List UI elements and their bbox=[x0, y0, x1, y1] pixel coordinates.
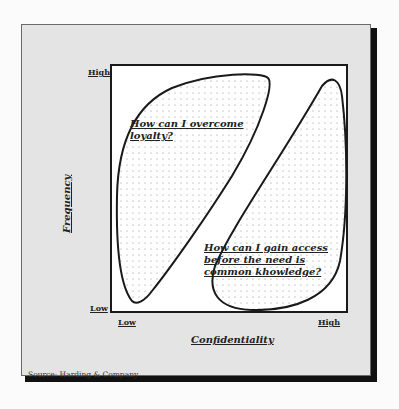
y-low-label: Low bbox=[90, 303, 108, 313]
y-high-label: High bbox=[88, 67, 110, 77]
x-axis-title: Confidentiality bbox=[191, 334, 274, 345]
x-low-label: Low bbox=[118, 317, 136, 327]
plot-area: How can I overcome loyalty? How can I ga… bbox=[110, 64, 348, 313]
y-axis-title: Frequency bbox=[61, 175, 72, 233]
source-note: Source: Harding & Company bbox=[28, 370, 138, 379]
x-high-label: High bbox=[318, 317, 340, 327]
question-lower-right: How can I gain access before the need is… bbox=[204, 242, 328, 278]
question-line: loyalty? bbox=[130, 130, 244, 142]
question-line: How can I overcome bbox=[130, 118, 244, 130]
figure-panel: High Low Frequency How can I overcome lo… bbox=[21, 24, 371, 376]
question-line: common khowledge? bbox=[204, 266, 328, 278]
question-upper-left: How can I overcome loyalty? bbox=[130, 118, 244, 142]
question-line: before the need is bbox=[204, 254, 328, 266]
question-line: How can I gain access bbox=[204, 242, 328, 254]
